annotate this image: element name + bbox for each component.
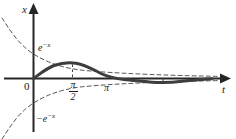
half-pi-denominator: 2 (66, 92, 80, 103)
lower-envelope-base: −e (36, 113, 47, 124)
t-axis-arrow-icon (220, 74, 231, 84)
t-axis-label: t (222, 84, 225, 95)
origin-label: 0 (24, 81, 30, 92)
tick-label-half-pi: π 2 (66, 80, 80, 102)
lower-envelope-label: −e−x (36, 113, 55, 124)
lower-envelope-exponent: −x (47, 112, 55, 120)
tick-label-pi: π (104, 82, 109, 93)
half-pi-numerator: π (66, 80, 80, 91)
x-axis-arrow-icon (29, 3, 39, 14)
upper-envelope-exponent: −x (42, 41, 50, 49)
damped-oscillation-figure: x t 0 e−x −e−x π 2 π (0, 0, 236, 139)
x-axis-label: x (22, 4, 27, 15)
upper-envelope-label: e−x (38, 42, 50, 53)
